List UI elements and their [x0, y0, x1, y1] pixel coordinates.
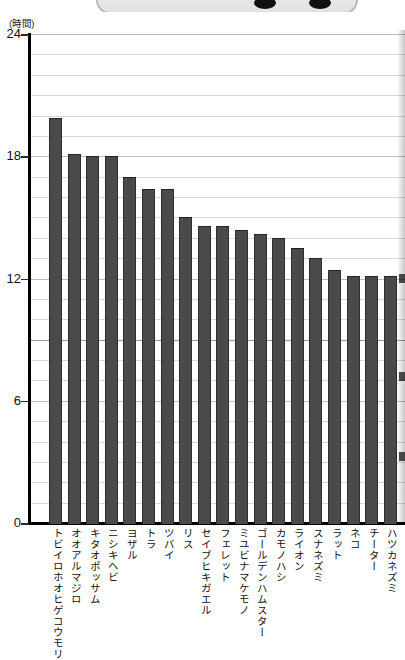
bar — [235, 230, 248, 524]
bar — [347, 276, 360, 524]
bar — [365, 276, 378, 524]
x-axis-label: ミユビナマケモノ — [233, 528, 248, 616]
bar — [216, 226, 229, 524]
x-axis-label: ネコ — [345, 528, 360, 550]
bar — [49, 118, 62, 524]
x-axis-label: ニシキヘビ — [103, 528, 118, 583]
bar — [142, 189, 155, 524]
x-axis-label: ライオン — [289, 528, 304, 572]
y-tick-label: 12 — [1, 272, 21, 285]
y-tick-label: 0 — [1, 516, 21, 529]
bar — [384, 276, 397, 524]
bar — [86, 156, 99, 524]
bar — [161, 189, 174, 524]
gridline — [31, 136, 405, 137]
bar — [68, 154, 81, 524]
gridline — [31, 116, 405, 117]
x-axis-label: カモノハシ — [270, 528, 285, 583]
y-tick-label: 6 — [1, 394, 21, 407]
x-axis-label: トラ — [140, 528, 155, 550]
bar — [272, 238, 285, 524]
x-axis-label: リス — [177, 528, 192, 550]
y-tick-mark — [21, 156, 29, 158]
gridline — [31, 95, 405, 96]
x-axis-label: ツバイ — [159, 528, 174, 561]
x-axis-label: トビイロホオヒゲコウモリ — [47, 528, 62, 660]
x-axis-label: ヨザル — [121, 528, 136, 561]
scan-speck — [399, 274, 405, 283]
y-tick-mark — [21, 34, 29, 36]
scan-speck — [399, 372, 405, 381]
x-axis-label: オオアルマジロ — [66, 528, 81, 605]
x-axis-label: チーター — [363, 528, 378, 572]
x-axis-label: セイブヒキガエル — [196, 528, 211, 616]
bar — [105, 156, 118, 524]
y-axis-tick-labels: 06121824 — [0, 0, 21, 648]
x-axis-label: フェレット — [214, 528, 229, 583]
y-tick-mark — [21, 401, 29, 403]
bar — [309, 258, 322, 524]
x-axis-label: ゴールデンハムスター — [252, 528, 267, 638]
gridline — [31, 75, 405, 76]
gridline — [31, 34, 405, 35]
bar — [198, 226, 211, 524]
bar — [328, 270, 341, 524]
y-tick-label: 18 — [1, 149, 21, 162]
x-axis-label: ハツカネズミ — [382, 528, 397, 594]
y-tick-mark — [21, 279, 29, 281]
gridline — [31, 54, 405, 55]
y-tick-mark — [21, 523, 29, 525]
bar — [123, 177, 136, 524]
bar — [291, 248, 304, 524]
x-axis-label: キタオポッサム — [84, 528, 99, 605]
bar — [179, 217, 192, 524]
x-axis-label: スナネズミ — [307, 528, 322, 583]
y-tick-label: 24 — [1, 27, 21, 40]
bar — [254, 234, 267, 524]
x-axis-label: ラット — [326, 528, 341, 561]
scan-speck — [399, 452, 405, 461]
